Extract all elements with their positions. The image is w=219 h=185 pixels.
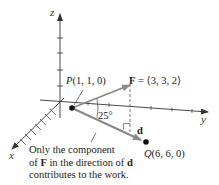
y-axis-label: y: [201, 114, 206, 125]
annotation-line-3: contributes to the work.: [29, 169, 133, 182]
point-P: [69, 105, 75, 111]
annotation-line-2: of F in the direction of d: [29, 157, 133, 170]
y-axis: [40, 100, 208, 113]
point-P-label: P(1, 1, 0): [66, 76, 106, 87]
force-label: F = ⟨3, 3, 2⟩: [129, 76, 181, 87]
x-axis-label: x: [9, 150, 14, 161]
displacement-label: d: [137, 126, 143, 137]
point-Q: [143, 139, 149, 145]
annotation-line-1: Only the component: [29, 144, 133, 157]
annotation-leader-line: [91, 133, 96, 142]
work-diagram: z y x P(1, 1, 0) F = ⟨3, 3, 2⟩ 25° d Q(6…: [0, 0, 219, 185]
x-axis: [12, 98, 64, 149]
point-Q-label: Q(6, 6, 0): [144, 149, 185, 160]
z-axis-label: z: [50, 7, 54, 18]
right-angle-mark: [124, 124, 131, 130]
angle-label: 25°: [98, 111, 113, 122]
work-annotation: Only the component of F in the direction…: [29, 144, 133, 182]
